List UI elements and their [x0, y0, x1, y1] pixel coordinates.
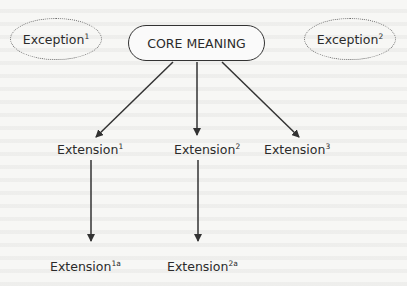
extension-1-label: Extension1 [57, 142, 123, 157]
exception-1-node: Exception1 [10, 18, 102, 60]
edge-core-to-extension1 [96, 62, 173, 137]
exception-2-node: Exception2 [304, 18, 396, 60]
extension-1a-label: Extension1a [50, 259, 121, 274]
core-meaning-node: CORE MEANING [128, 25, 265, 61]
exception-1-label: Exception1 [23, 32, 89, 47]
edge-core-to-extension3 [222, 62, 299, 137]
exception-2-label: Exception2 [317, 32, 383, 47]
extension-2a-label: Extension2a [167, 259, 238, 274]
diagram-canvas: Exception1 CORE MEANING Exception2 Exten… [0, 0, 407, 286]
extension-2-label: Extension2 [174, 142, 240, 157]
extension-3-label: Extension3 [264, 142, 330, 157]
core-meaning-label: CORE MEANING [147, 36, 245, 51]
